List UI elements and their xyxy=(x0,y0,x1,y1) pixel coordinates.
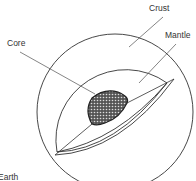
core-label: Core xyxy=(7,38,25,48)
caption-label: Earth xyxy=(0,172,18,181)
core-shape xyxy=(88,91,128,125)
core-leader-line xyxy=(20,52,95,94)
mantle-label: Mantle xyxy=(165,30,191,40)
earth-cutaway-diagram xyxy=(0,0,196,181)
cut-line-upper xyxy=(127,79,174,103)
crust-label: Crust xyxy=(149,3,169,13)
crust-leader-line xyxy=(129,17,163,47)
